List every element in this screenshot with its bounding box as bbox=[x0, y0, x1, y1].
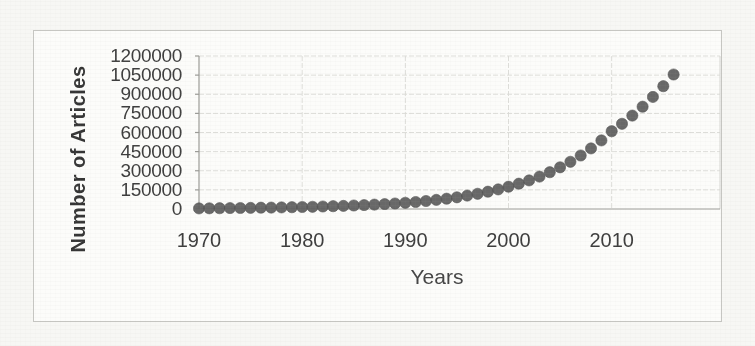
data-point bbox=[245, 202, 256, 213]
data-point bbox=[534, 171, 545, 182]
data-point bbox=[286, 202, 297, 213]
data-point bbox=[369, 199, 380, 210]
data-point bbox=[513, 178, 524, 189]
data-point bbox=[359, 200, 370, 211]
y-tick-label: 600000 bbox=[52, 122, 182, 144]
data-point bbox=[451, 192, 462, 203]
chart-frame: Number of Articles 015000030000045000060… bbox=[33, 30, 722, 322]
x-tick-label: 1990 bbox=[363, 229, 447, 251]
data-point bbox=[596, 135, 607, 146]
data-point bbox=[255, 202, 266, 213]
data-point bbox=[193, 203, 204, 214]
y-tick-label: 300000 bbox=[52, 160, 182, 182]
data-point bbox=[214, 203, 225, 214]
y-tick-label: 0 bbox=[52, 198, 182, 220]
data-point bbox=[328, 201, 339, 212]
data-point bbox=[276, 202, 287, 213]
data-point bbox=[647, 91, 658, 102]
x-tick-label: 2010 bbox=[570, 229, 654, 251]
x-tick-label: 1980 bbox=[260, 229, 344, 251]
data-point bbox=[235, 202, 246, 213]
data-point bbox=[627, 110, 638, 121]
data-point bbox=[389, 198, 400, 209]
data-point bbox=[575, 150, 586, 161]
data-point bbox=[637, 101, 648, 112]
data-point bbox=[616, 118, 627, 129]
data-point bbox=[431, 194, 442, 205]
scanned-page: Number of Articles 015000030000045000060… bbox=[0, 0, 755, 346]
data-point bbox=[410, 196, 421, 207]
data-point bbox=[658, 81, 669, 92]
y-tick-label: 900000 bbox=[52, 83, 182, 105]
y-tick-label: 450000 bbox=[52, 141, 182, 163]
data-point bbox=[441, 193, 452, 204]
data-point bbox=[668, 69, 679, 80]
data-point bbox=[482, 186, 493, 197]
x-axis-title: Years bbox=[337, 264, 537, 290]
data-point bbox=[338, 200, 349, 211]
data-point bbox=[503, 181, 514, 192]
data-point bbox=[420, 195, 431, 206]
data-point bbox=[317, 201, 328, 212]
data-point bbox=[585, 143, 596, 154]
data-point bbox=[266, 202, 277, 213]
data-point bbox=[606, 126, 617, 137]
data-point bbox=[297, 201, 308, 212]
data-point bbox=[400, 197, 411, 208]
data-point bbox=[565, 156, 576, 167]
data-point bbox=[307, 201, 318, 212]
data-point bbox=[544, 167, 555, 178]
data-point bbox=[224, 203, 235, 214]
data-point bbox=[348, 200, 359, 211]
y-tick-label: 1050000 bbox=[52, 64, 182, 86]
x-tick-label: 1970 bbox=[157, 229, 241, 251]
y-tick-label: 150000 bbox=[52, 179, 182, 201]
data-point bbox=[204, 203, 215, 214]
data-point bbox=[555, 162, 566, 173]
x-tick-label: 2000 bbox=[467, 229, 551, 251]
data-point bbox=[472, 188, 483, 199]
data-point bbox=[493, 184, 504, 195]
y-tick-label: 750000 bbox=[52, 102, 182, 124]
data-point bbox=[379, 199, 390, 210]
data-point bbox=[462, 190, 473, 201]
data-point bbox=[524, 175, 535, 186]
y-tick-label: 1200000 bbox=[52, 45, 182, 67]
